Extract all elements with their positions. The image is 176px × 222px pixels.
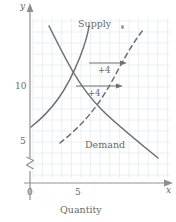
demand-curve-label: Demand xyxy=(85,140,125,150)
supply-curve-label: Supply xyxy=(78,19,111,29)
x-tick-5: 5 xyxy=(75,188,81,197)
x-axis-label: x xyxy=(166,186,171,195)
y-axis-label: y xyxy=(20,2,25,11)
supply-demand-figure: y x 10 5 0 5 Supply Demand +4 +4 Quantit… xyxy=(0,0,176,222)
grid xyxy=(33,18,170,178)
supply-curve xyxy=(31,26,89,127)
ink-smudge-mark xyxy=(121,25,124,29)
x-tick-0: 0 xyxy=(27,188,33,197)
axis-break-icon xyxy=(27,157,34,169)
y-axis-arrowhead xyxy=(27,3,34,12)
shift-label-lower: +4 xyxy=(88,89,101,98)
shift-label-upper: +4 xyxy=(98,66,111,75)
x-axis-title: Quantity xyxy=(60,205,102,215)
y-tick-5: 5 xyxy=(20,137,26,146)
y-tick-10: 10 xyxy=(15,82,26,91)
axes xyxy=(24,11,166,200)
